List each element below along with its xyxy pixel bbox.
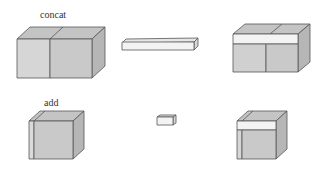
- concat-feature-bar: [122, 38, 198, 50]
- concat-input-block: [17, 27, 105, 78]
- concat-output-block: [233, 24, 310, 72]
- diagram-canvas: [0, 0, 325, 175]
- add-input-block: [29, 111, 84, 159]
- add-feature-bar: [157, 115, 176, 125]
- add-output-block: [237, 111, 287, 159]
